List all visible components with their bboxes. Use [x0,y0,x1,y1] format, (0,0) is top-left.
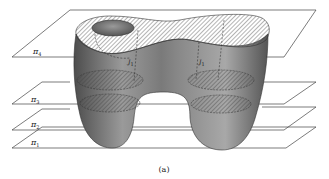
section-pi3-right [188,70,254,90]
label-pi4: π4 [32,47,41,57]
plane-pi2 [12,107,316,130]
surface-diagram: π4 π3 π2 π1 J1 J1 (a) [0,0,329,179]
torus-hole [92,20,134,36]
label-pi2: π2 [30,120,39,130]
section-pi2-left [80,94,140,112]
section-pi2-right [191,95,251,113]
label-pi3: π3 [30,95,39,105]
section-pi3-left [77,70,143,90]
figure-caption: (a) [158,165,169,174]
label-pi1: π1 [30,138,39,148]
